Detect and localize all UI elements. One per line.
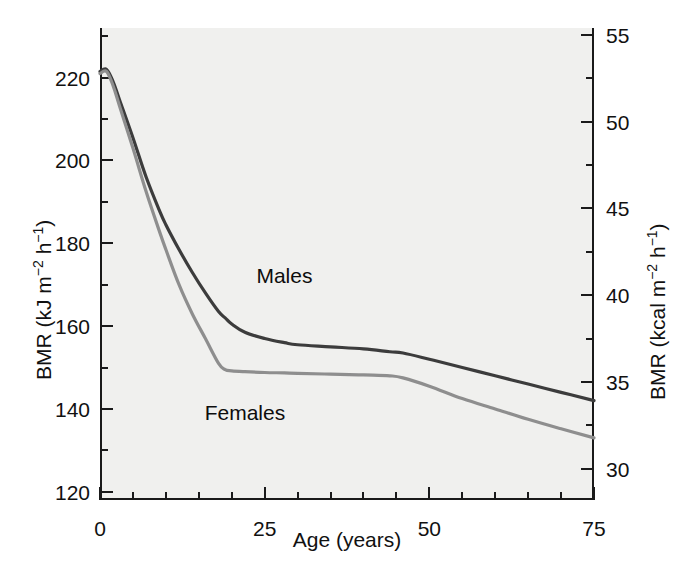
series-line-males [100, 69, 594, 401]
series-label-males: Males [256, 264, 312, 288]
x-axis-tick-label: 0 [94, 518, 106, 539]
figure-caption [0, 560, 677, 574]
left-title-sup-2: −1 [30, 227, 46, 243]
y-axis-left-tick-label: 140 [28, 398, 90, 419]
left-title-text: BMR (kJ m [32, 276, 55, 380]
y-axis-right-tick-label: 40 [606, 285, 629, 306]
y-axis-right-title: BMR (kcal m−2 h−1) [646, 223, 670, 400]
y-axis-left-title: BMR (kJ m−2 h−1) [32, 220, 56, 380]
x-axis-tick-label: 25 [253, 518, 276, 539]
y-axis-right-tick-label: 55 [606, 24, 629, 45]
series-label-females: Females [205, 401, 286, 425]
x-axis-title: Age (years) [293, 528, 402, 552]
left-title-end: ) [32, 220, 55, 227]
x-axis-tick-label: 50 [418, 518, 441, 539]
right-title-sup-2: −1 [644, 230, 660, 246]
y-axis-right-tick-label: 45 [606, 198, 629, 219]
y-axis-right-tick-label: 30 [606, 458, 629, 479]
right-title-sup-1: −2 [644, 264, 660, 280]
y-axis-left-tick-label: 120 [28, 481, 90, 502]
y-axis-left-tick-label: 220 [28, 67, 90, 88]
left-title-mid: h [32, 243, 55, 261]
right-title-mid: h [646, 246, 669, 264]
data-series-group [100, 69, 594, 438]
y-axis-right-tick-label: 50 [606, 111, 629, 132]
right-title-text: BMR (kcal m [646, 280, 669, 400]
right-title-end: ) [646, 223, 669, 230]
y-axis-right-tick-label: 35 [606, 372, 629, 393]
left-title-sup-1: −2 [30, 260, 46, 276]
x-axis-tick-label: 75 [582, 518, 605, 539]
y-axis-left-tick-label: 200 [28, 150, 90, 171]
chart-svg [0, 0, 677, 574]
figure-container: 120140160180200220 303540455055 0255075 … [0, 0, 677, 574]
